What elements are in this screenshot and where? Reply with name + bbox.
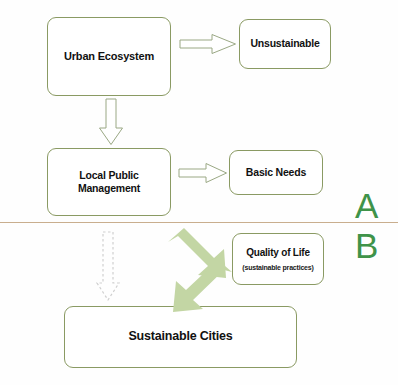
node-unsustainable[interactable]: Unsustainable	[239, 19, 331, 69]
arrow-to-sustainable-icon	[160, 260, 234, 318]
node-quality-of-life[interactable]: Quality of Life (sustainable practices)	[232, 233, 324, 285]
arrow-urban-to-unsustainable-icon	[179, 33, 237, 55]
section-label-b: B	[355, 228, 378, 263]
arrow-urban-to-local-icon	[98, 98, 124, 146]
node-sublabel: (sustainable practices)	[242, 264, 313, 271]
section-label-a: A	[355, 188, 378, 223]
node-label: Urban Ecosystem	[64, 50, 154, 64]
arrow-dashed-down-icon	[95, 231, 121, 303]
node-urban-ecosystem[interactable]: Urban Ecosystem	[47, 17, 171, 96]
arrow-local-to-basic-icon	[178, 162, 228, 184]
node-local-public-management[interactable]: Local Public Management	[47, 148, 171, 216]
node-label: Quality of Life	[246, 247, 310, 260]
node-label: Sustainable Cities	[128, 329, 232, 345]
section-divider-line	[0, 222, 398, 223]
node-label: Unsustainable	[250, 37, 319, 50]
node-basic-needs[interactable]: Basic Needs	[229, 150, 323, 195]
node-label: Basic Needs	[246, 166, 306, 179]
diagram-canvas: Urban Ecosystem Unsustainable Local Publ…	[0, 0, 398, 385]
node-label: Local Public Management	[48, 169, 170, 195]
